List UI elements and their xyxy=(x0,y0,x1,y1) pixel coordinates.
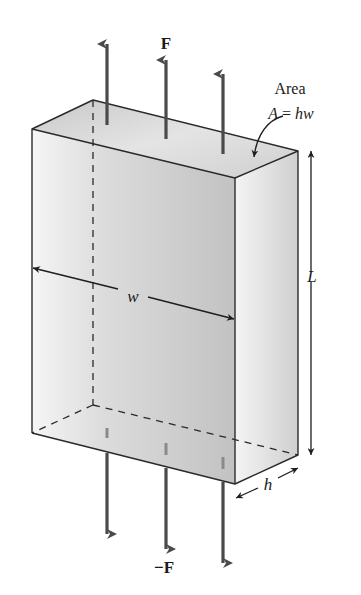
area-title: Area xyxy=(274,80,305,97)
force-label-bottom: −F xyxy=(154,558,174,577)
width-label: w xyxy=(127,287,139,306)
side-face xyxy=(235,151,298,484)
thickness-label: h xyxy=(264,475,273,494)
tensile-bar-diagram: F −F Area A = hw w L h xyxy=(0,0,361,595)
force-label-top: F xyxy=(161,34,171,53)
front-face xyxy=(32,129,235,484)
length-label: L xyxy=(306,267,316,286)
